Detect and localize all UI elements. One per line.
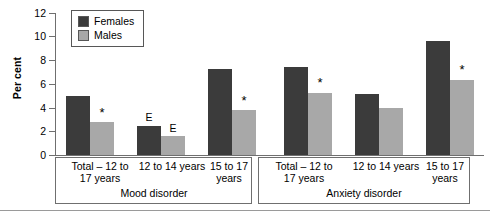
bar-males-anxiety-15-17	[450, 80, 474, 155]
bar-females-anxiety-12-14	[355, 94, 379, 155]
marker-e-females-mood-12-14: E	[142, 112, 156, 122]
y-tick-label-12: 12	[22, 8, 46, 18]
marker-e-males-mood-12-14: E	[166, 123, 180, 133]
category-label-mood-total-line1: Total – 12 to	[59, 161, 141, 173]
category-label-mood-12-14: 12 to 14 years	[130, 161, 214, 173]
y-tick-8	[49, 60, 55, 61]
bar-females-anxiety-total	[284, 67, 308, 155]
y-tick-label-8: 8	[22, 55, 46, 65]
legend-item-females: Females	[78, 14, 134, 28]
bottom-divider	[0, 210, 490, 211]
y-tick-6	[49, 84, 55, 85]
marker-star-males-anxiety-15-17: *	[455, 65, 469, 75]
legend-label-females: Females	[94, 15, 134, 27]
marker-star-males-mood-15-17: *	[237, 96, 251, 106]
marker-star-males-anxiety-total: *	[313, 78, 327, 88]
bar-males-anxiety-total	[308, 93, 332, 155]
y-tick-2	[49, 131, 55, 132]
legend-swatch-females-icon	[78, 16, 89, 27]
category-label-anxiety-total-line2: 17 years	[263, 173, 345, 185]
bar-males-mood-total	[90, 122, 114, 155]
group-label-anxiety: Anxiety disorder	[294, 188, 434, 200]
y-tick-10	[49, 36, 55, 37]
category-label-mood-total-line2: 17 years	[59, 173, 141, 185]
bar-females-mood-15-17	[208, 69, 232, 155]
bar-females-anxiety-15-17	[426, 41, 450, 155]
legend-label-males: Males	[94, 29, 122, 41]
bar-females-mood-12-14	[137, 126, 161, 155]
category-label-mood-15-17-line2: years	[205, 173, 253, 185]
bar-chart: Per cent 12 10 8 6 4 2 0 * E E * *	[0, 0, 490, 215]
y-tick-label-4: 4	[22, 103, 46, 113]
group-label-mood: Mood disorder	[84, 188, 224, 200]
y-tick-12	[49, 13, 55, 14]
category-label-anxiety-15-17-line1: 15 to 17	[421, 161, 469, 173]
y-tick-label-6: 6	[22, 79, 46, 89]
bar-females-mood-total	[66, 96, 90, 155]
category-label-mood-15-17-line1: 15 to 17	[205, 161, 253, 173]
y-tick-label-0: 0	[22, 150, 46, 160]
bar-males-mood-12-14	[161, 136, 185, 155]
bar-males-mood-15-17	[232, 110, 256, 155]
category-label-anxiety-15-17-line2: years	[421, 173, 469, 185]
marker-star-males-mood-total: *	[95, 108, 109, 118]
legend-swatch-males-icon	[78, 30, 89, 41]
legend: Females Males	[71, 10, 144, 47]
y-tick-label-2: 2	[22, 126, 46, 136]
category-label-anxiety-total-line1: Total – 12 to	[263, 161, 345, 173]
y-tick-label-10: 10	[22, 31, 46, 41]
category-label-anxiety-12-14: 12 to 14 years	[344, 161, 428, 173]
bar-males-anxiety-12-14	[379, 108, 403, 155]
y-tick-4	[49, 108, 55, 109]
legend-item-males: Males	[78, 28, 134, 42]
